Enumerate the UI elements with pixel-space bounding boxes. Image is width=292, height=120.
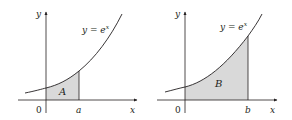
left-panel: y x 0 a A y = ex — [18, 9, 137, 115]
y-axis-label: y — [174, 9, 181, 19]
shaded-region-b — [185, 36, 248, 100]
region-label-a: A — [58, 86, 66, 97]
region-label-b: B — [214, 78, 222, 89]
x-axis-label: x — [130, 105, 135, 115]
curve-label: y = ex — [219, 20, 248, 32]
x-axis-label: x — [270, 105, 275, 115]
figure: y x 0 a A y = ex y x 0 b B y = ex — [0, 0, 292, 120]
origin-label: 0 — [36, 105, 42, 115]
right-panel: y x 0 b B y = ex — [157, 9, 277, 115]
curve-label: y = ex — [81, 23, 110, 35]
bound-label-b: b — [245, 105, 251, 115]
origin-label: 0 — [175, 105, 181, 115]
bound-label-a: a — [76, 105, 81, 115]
y-axis-label: y — [35, 9, 42, 19]
